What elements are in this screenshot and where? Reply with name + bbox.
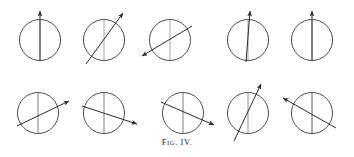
- diagram-3: [142, 20, 192, 61]
- vector-arrow-7: [82, 106, 137, 124]
- diagram-8: [161, 93, 214, 134]
- figure-caption: FIG. IV.: [0, 137, 354, 147]
- diagram-2: [84, 13, 125, 64]
- figure-container: FIG. IV.: [0, 0, 354, 157]
- diagram-9: [228, 84, 269, 141]
- caption-smallcaps: IG: [167, 139, 175, 146]
- diagram-10: [283, 93, 336, 134]
- diagram-6: [17, 93, 69, 134]
- vector-arrow-8: [161, 102, 214, 125]
- caption-number: . IV.: [175, 137, 192, 147]
- diagram-5: [292, 11, 333, 61]
- vector-diagram-canvas: [0, 0, 354, 157]
- diagram-7: [82, 93, 137, 134]
- diagram-1: [20, 11, 61, 61]
- vector-arrow-6: [17, 101, 69, 126]
- vector-arrow-2: [86, 13, 123, 64]
- vector-arrow-10: [283, 98, 336, 128]
- diagram-4: [228, 11, 269, 62]
